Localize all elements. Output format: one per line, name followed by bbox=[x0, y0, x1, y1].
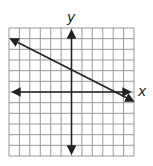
y-axis-label: y bbox=[67, 10, 75, 24]
coordinate-plane bbox=[0, 0, 153, 166]
x-axis-label: x bbox=[138, 84, 146, 98]
